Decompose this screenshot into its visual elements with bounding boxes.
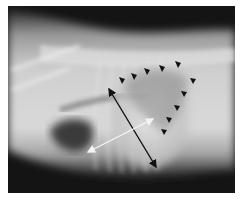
xray-canvas xyxy=(8,6,235,193)
radiograph-image xyxy=(8,6,235,193)
